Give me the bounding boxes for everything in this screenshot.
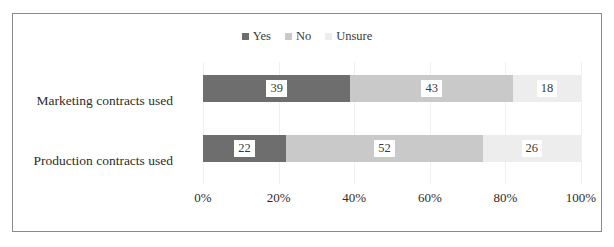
bar-segment-marketing-unsure[interactable]: 18	[513, 75, 581, 102]
legend-item-unsure[interactable]: Unsure	[325, 30, 372, 43]
chart-legend: Yes No Unsure	[13, 30, 601, 43]
x-tick-label: 60%	[418, 190, 442, 206]
plot-area: 39 43 18 22 52 26	[203, 62, 581, 184]
bar-value-production-unsure: 26	[522, 140, 543, 158]
legend-item-yes[interactable]: Yes	[242, 30, 271, 43]
legend-label-unsure: Unsure	[336, 30, 372, 43]
bar-value-production-no: 52	[374, 140, 395, 158]
chart-figure: Yes No Unsure Marketing contracts used P…	[12, 13, 602, 232]
legend-label-yes: Yes	[253, 30, 271, 43]
x-tick-label: 40%	[342, 190, 366, 206]
legend-swatch-yes	[242, 33, 249, 40]
gridline	[581, 62, 582, 184]
category-label-marketing: Marketing contracts used	[0, 93, 173, 109]
bar-value-marketing-unsure: 18	[537, 80, 558, 98]
bar-value-marketing-yes: 39	[266, 80, 287, 98]
x-axis: 0%20%40%60%80%100%	[203, 190, 581, 212]
bar-segment-production-unsure[interactable]: 26	[483, 135, 581, 162]
bar-segment-production-yes[interactable]: 22	[203, 135, 286, 162]
table-row: 22 52 26	[203, 135, 581, 162]
bar-value-marketing-no: 43	[421, 80, 442, 98]
category-label-production: Production contracts used	[0, 153, 173, 169]
bar-segment-marketing-yes[interactable]: 39	[203, 75, 350, 102]
legend-item-no[interactable]: No	[285, 30, 311, 43]
bar-segment-marketing-no[interactable]: 43	[350, 75, 513, 102]
table-row: 39 43 18	[203, 75, 581, 102]
legend-swatch-unsure	[325, 33, 332, 40]
x-tick-label: 0%	[194, 190, 211, 206]
x-tick-label: 20%	[267, 190, 291, 206]
legend-swatch-no	[285, 33, 292, 40]
bar-segment-production-no[interactable]: 52	[286, 135, 483, 162]
legend-label-no: No	[296, 30, 311, 43]
bar-value-production-yes: 22	[234, 140, 255, 158]
x-tick-label: 80%	[493, 190, 517, 206]
x-tick-label: 100%	[566, 190, 596, 206]
